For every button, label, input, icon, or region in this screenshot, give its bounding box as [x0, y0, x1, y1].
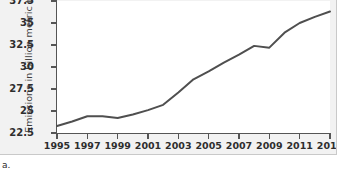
figure-item-label: a.	[2, 160, 10, 170]
emissions-line-series	[0, 0, 337, 155]
chart-panel: Emissions in billion metric tons 37.5353…	[0, 0, 337, 155]
figure-root: Emissions in billion metric tons 37.5353…	[0, 0, 348, 178]
